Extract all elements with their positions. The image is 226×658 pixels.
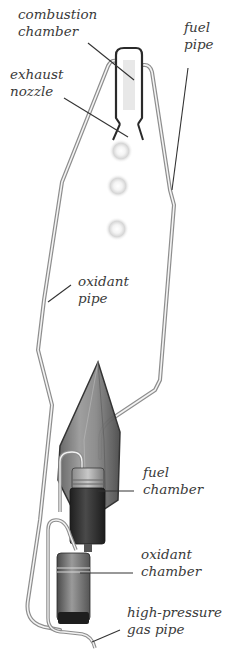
label-oxidant-pipe: oxidant pipe [78, 273, 129, 307]
label-line: exhaust [10, 66, 63, 83]
exhaust-glows [105, 139, 133, 241]
label-fuel-chamber: fuel chamber [143, 464, 203, 498]
label-line: gas pipe [127, 621, 222, 638]
label-line: pipe [184, 36, 214, 53]
label-line: high-pressure [127, 604, 222, 621]
label-line: oxidant [141, 546, 201, 563]
label-line: fuel [184, 19, 214, 36]
label-combustion-chamber: combustion chamber [18, 6, 97, 40]
label-high-pressure-gas-pipe: high-pressure gas pipe [127, 604, 222, 638]
label-line: oxidant [78, 273, 129, 290]
label-line: chamber [143, 481, 203, 498]
rocket-diagram: combustion chamber fuel pipe exhaust noz… [0, 0, 226, 658]
leader-fuel-pipe [172, 68, 188, 190]
oxidant-chamber-body [57, 553, 90, 624]
label-line: chamber [141, 563, 201, 580]
fuel-chamber-body [70, 468, 105, 552]
combustion-chamber-body [113, 48, 143, 140]
leader-oxidant-pipe [48, 285, 71, 302]
label-fuel-pipe: fuel pipe [184, 19, 214, 53]
label-oxidant-chamber: oxidant chamber [141, 546, 201, 580]
leader-gas-pipe [92, 630, 120, 642]
label-exhaust-nozzle: exhaust nozzle [10, 66, 63, 100]
label-line: combustion [18, 6, 97, 23]
label-line: nozzle [10, 83, 63, 100]
label-line: chamber [18, 23, 97, 40]
label-line: pipe [78, 290, 129, 307]
label-line: fuel [143, 464, 203, 481]
